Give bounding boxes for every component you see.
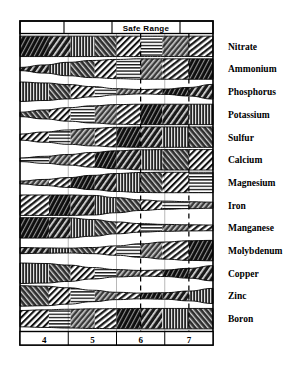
axis-tick-label-5: 5 — [90, 335, 95, 345]
axis-tick-label-4: 4 — [42, 335, 47, 345]
band-segment — [189, 125, 213, 149]
band-segment — [162, 148, 189, 172]
band-segment — [71, 193, 95, 217]
chart-canvas: Safe Range 4567 NitrateAmmoniumPhosphoru… — [0, 0, 300, 366]
band-segment — [141, 57, 163, 81]
axis-row: 4567 — [20, 332, 213, 346]
band-segment — [189, 34, 213, 58]
row-label-manganese: Manganese — [228, 223, 274, 233]
row-label-iron: Iron — [228, 201, 246, 211]
band-segment — [117, 125, 141, 149]
row-label-zinc: Zinc — [228, 291, 246, 301]
band-segment — [162, 57, 189, 81]
band-segment — [117, 170, 141, 194]
band-segment — [189, 170, 213, 194]
band-segment — [189, 306, 213, 330]
band-segment — [141, 102, 163, 126]
band-segment — [141, 125, 163, 149]
band-segment — [117, 57, 141, 81]
row-label-nitrate: Nitrate — [228, 42, 257, 52]
band-segment — [162, 125, 189, 149]
row-label-boron: Boron — [228, 314, 254, 324]
row-label-ammonium: Ammonium — [228, 64, 277, 74]
row-label-magnesium: Magnesium — [228, 178, 276, 188]
band-segment — [117, 148, 141, 172]
row-label-copper: Copper — [228, 269, 259, 279]
band-segment — [117, 102, 141, 126]
band-segment — [162, 306, 189, 330]
header-row: Safe Range — [20, 21, 213, 34]
band-segment — [49, 34, 71, 58]
band-segment — [71, 34, 95, 58]
band-segment — [141, 34, 163, 58]
band-segment — [20, 193, 49, 217]
row-label-potassium: Potassium — [228, 110, 270, 120]
band-segment — [141, 306, 163, 330]
row-label-sulfur: Sulfur — [228, 133, 255, 143]
band-segment — [71, 306, 95, 330]
header-box — [20, 21, 213, 34]
band-segment — [189, 148, 213, 172]
row-label-molybdenum: Molybdenum — [228, 246, 282, 256]
band-segment — [189, 238, 213, 262]
band-segment — [20, 284, 49, 308]
band-segment — [49, 216, 71, 240]
band-segment — [141, 148, 163, 172]
row-label-phosphorus: Phosphorus — [228, 87, 276, 97]
band-segment — [162, 170, 189, 194]
row-label-calcium: Calcium — [228, 155, 262, 165]
band-segment — [95, 34, 117, 58]
band-segment — [189, 102, 213, 126]
band-segment — [20, 261, 49, 285]
band-segment — [20, 216, 49, 240]
band-segment — [189, 57, 213, 81]
axis-tick-label-7: 7 — [187, 335, 192, 345]
band-segment — [141, 170, 163, 194]
band-segment — [162, 102, 189, 126]
band-segment — [117, 34, 141, 58]
band-segment — [95, 306, 117, 330]
band-segment — [49, 193, 71, 217]
band-segment — [117, 306, 141, 330]
row-label-group: NitrateAmmoniumPhosphorusPotassiumSulfur… — [228, 42, 282, 324]
band-segment — [20, 34, 49, 58]
safe-range-label: Safe Range — [123, 24, 170, 33]
band-segment — [162, 34, 189, 58]
nutrient-availability-chart: Safe Range 4567 NitrateAmmoniumPhosphoru… — [0, 0, 300, 366]
axis-tick-label-6: 6 — [138, 335, 143, 345]
